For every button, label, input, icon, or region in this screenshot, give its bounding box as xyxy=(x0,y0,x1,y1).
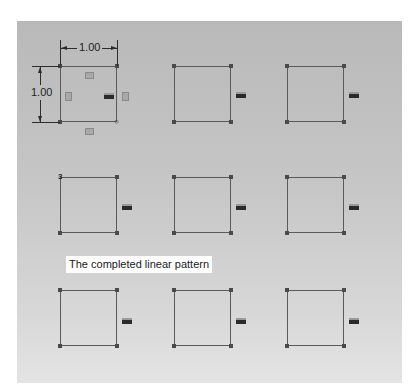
sketch-point[interactable] xyxy=(285,64,289,68)
sketch-square[interactable] xyxy=(174,66,231,122)
sketch-square[interactable] xyxy=(174,177,231,233)
sketch-point[interactable] xyxy=(172,64,176,68)
sketch-point[interactable] xyxy=(285,288,289,292)
origin-icon: 3 xyxy=(58,172,62,181)
vertical-constraint-icon xyxy=(122,92,129,101)
sketch-point[interactable] xyxy=(58,344,62,348)
arrow-left-icon xyxy=(61,46,67,50)
arrow-up-icon xyxy=(38,67,42,73)
sketch-point[interactable] xyxy=(285,231,289,235)
caption-label: The completed linear pattern xyxy=(66,256,212,273)
sketch-point[interactable] xyxy=(229,64,233,68)
sketch-point[interactable] xyxy=(285,120,289,124)
vertical-dimension[interactable]: 1.00 xyxy=(31,86,52,98)
sketch-point[interactable] xyxy=(172,120,176,124)
arrow-right-icon xyxy=(111,46,117,50)
sketch-square[interactable] xyxy=(287,66,344,122)
sketch-point[interactable] xyxy=(115,288,119,292)
sketch-point[interactable] xyxy=(342,344,346,348)
sketch-point[interactable] xyxy=(58,231,62,235)
equal-relation-icon xyxy=(236,92,246,98)
sketch-point[interactable] xyxy=(172,231,176,235)
equal-relation-icon xyxy=(104,93,114,99)
sketch-point[interactable] xyxy=(229,231,233,235)
extension-line xyxy=(32,122,60,123)
sketch-point[interactable] xyxy=(58,288,62,292)
extension-line xyxy=(32,66,60,67)
horizontal-constraint-icon xyxy=(85,72,94,79)
sketch-point[interactable] xyxy=(172,288,176,292)
sketch-point[interactable] xyxy=(342,120,346,124)
sketch-point[interactable] xyxy=(285,175,289,179)
sketch-square[interactable] xyxy=(174,290,231,346)
sketch-point[interactable] xyxy=(115,231,119,235)
vertical-constraint-icon xyxy=(65,92,72,101)
arrow-down-icon xyxy=(38,116,42,122)
sketch-square[interactable] xyxy=(60,177,117,233)
horizontal-dimension[interactable]: 1.00 xyxy=(79,41,100,53)
equal-relation-icon xyxy=(349,318,359,324)
horizontal-constraint-icon xyxy=(85,128,94,135)
sketch-point[interactable] xyxy=(229,344,233,348)
sketch-square[interactable] xyxy=(287,290,344,346)
sketch-point[interactable] xyxy=(115,344,119,348)
equal-relation-icon xyxy=(122,204,132,210)
equal-relation-icon xyxy=(236,318,246,324)
extension-line xyxy=(117,40,118,66)
origin-icon: ○ xyxy=(114,117,119,126)
sketch-point[interactable] xyxy=(342,64,346,68)
sketch-point[interactable] xyxy=(342,288,346,292)
sketch-point[interactable] xyxy=(172,344,176,348)
sketch-point[interactable] xyxy=(172,175,176,179)
sketch-square[interactable] xyxy=(287,177,344,233)
sketch-point[interactable] xyxy=(285,344,289,348)
sketch-point[interactable] xyxy=(115,175,119,179)
sketch-point[interactable] xyxy=(229,175,233,179)
extension-line xyxy=(60,40,61,66)
sketch-point[interactable] xyxy=(342,175,346,179)
equal-relation-icon xyxy=(236,204,246,210)
sketch-point[interactable] xyxy=(342,231,346,235)
equal-relation-icon xyxy=(349,92,359,98)
sketch-square[interactable] xyxy=(60,290,117,346)
sketch-point[interactable] xyxy=(229,120,233,124)
equal-relation-icon xyxy=(122,318,132,324)
equal-relation-icon xyxy=(349,204,359,210)
sketch-point[interactable] xyxy=(229,288,233,292)
